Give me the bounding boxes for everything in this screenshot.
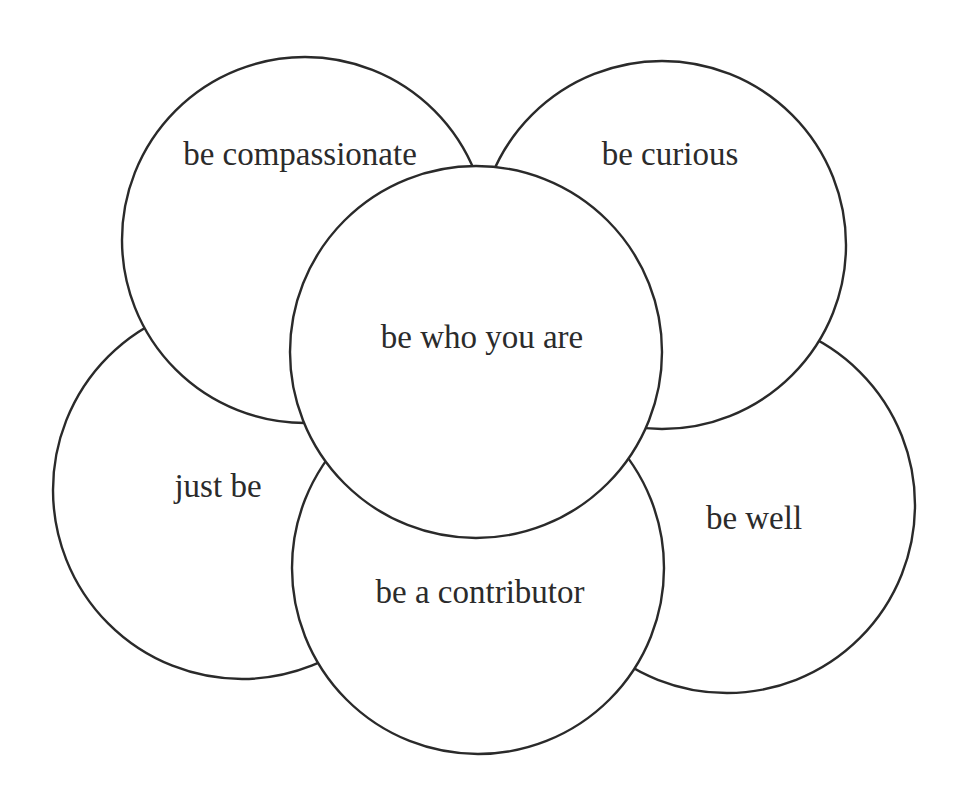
circle-label: be compassionate xyxy=(183,136,417,172)
circle-label: be curious xyxy=(602,136,739,172)
circle-label: just be xyxy=(173,468,261,504)
circle-label: be a contributor xyxy=(376,574,585,610)
circle-label: be well xyxy=(706,500,802,536)
circle-be-who-you-are: be who you are xyxy=(290,166,662,538)
circle-label: be who you are xyxy=(381,319,584,355)
values-circle-diagram: just be be well be compassionate be curi… xyxy=(0,0,971,797)
